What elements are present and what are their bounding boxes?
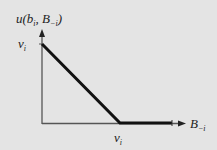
utility-curve xyxy=(42,44,172,123)
y-axis-label: u(bi, B−i) xyxy=(16,11,62,28)
y-tick-label: vi xyxy=(18,36,26,53)
diagram-canvas: u(bi, B−i) vi vi B−i xyxy=(0,0,217,150)
x-tick-label: vi xyxy=(114,130,122,147)
x-axis-label: B−i xyxy=(190,116,206,133)
y-axis-arrow-icon xyxy=(39,29,45,37)
x-axis-arrow-icon xyxy=(178,121,186,127)
utility-diagram: u(bi, B−i) vi vi B−i xyxy=(0,0,217,150)
